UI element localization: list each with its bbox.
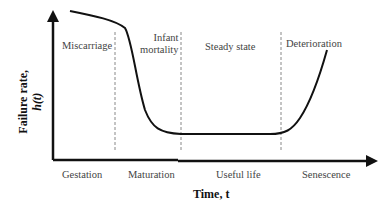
y-axis-label-line1: Failure rate, [17,57,31,147]
phase-maturation: Maturation [128,169,175,181]
region-steady-state: Steady state [205,41,255,53]
y-axis-label: Failure rate, h(t) [17,57,45,147]
region-infant-mortality-line2: mortality [140,44,179,56]
phase-useful-life: Useful life [216,169,261,181]
y-axis-label-line2: h(t) [31,57,45,147]
phase-senescence: Senescence [302,169,350,181]
region-deterioration: Deterioration [286,38,342,50]
region-infant-mortality: Infant mortality [140,32,179,55]
phase-gestation: Gestation [62,169,102,181]
failure-rate-curve [70,11,327,134]
x-axis-arrow-icon [366,155,378,167]
y-axis-arrow-icon [47,10,59,22]
x-axis-label: Time, t [193,187,229,202]
region-miscarriage: Miscarriage [62,40,112,52]
region-infant-mortality-line1: Infant [140,32,179,44]
